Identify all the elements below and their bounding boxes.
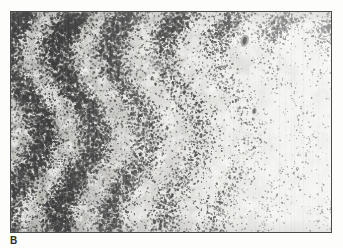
panel-label: B	[10, 235, 17, 247]
figure-panel: B	[0, 0, 343, 248]
micrograph-frame	[10, 11, 332, 233]
micrograph-image	[11, 12, 331, 232]
